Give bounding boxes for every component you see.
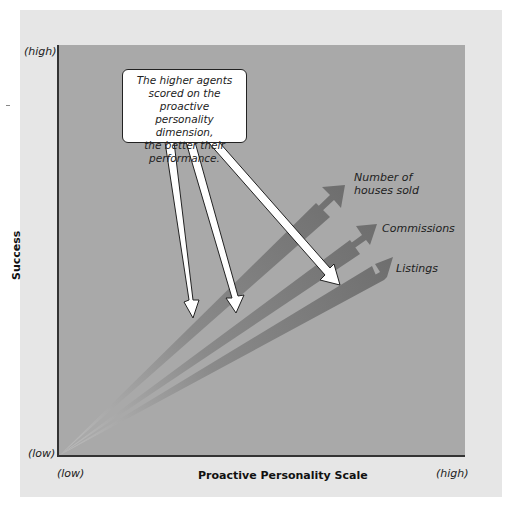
y-axis-line [57, 45, 59, 457]
label-line: Number of [354, 171, 419, 184]
x-tick-low: (low) [57, 467, 84, 480]
x-tick-high: (high) [436, 467, 469, 480]
callout-line: performance. [125, 152, 244, 165]
y-tick-high: (high) [24, 45, 57, 58]
annotation-callout: The higher agents scored on the proactiv… [122, 69, 247, 143]
arrow-commissions [60, 224, 377, 455]
arrow-listings [60, 257, 393, 455]
callout-line: The higher agents [125, 74, 244, 87]
label-listings: Listings [396, 262, 438, 275]
trend-arrows [0, 0, 526, 515]
x-axis-line [57, 455, 465, 457]
y-tick-low: (low) [28, 447, 55, 460]
label-houses-sold: Number of houses sold [354, 171, 419, 197]
callout-line: scored on the proactive [125, 87, 244, 113]
y-axis-title: Success [10, 231, 23, 280]
x-axis-title: Proactive Personality Scale [198, 469, 368, 482]
callout-line: personality dimension, [125, 113, 244, 139]
label-commissions: Commissions [382, 222, 455, 235]
callout-line: the better their [125, 139, 244, 152]
label-line: houses sold [354, 184, 419, 197]
